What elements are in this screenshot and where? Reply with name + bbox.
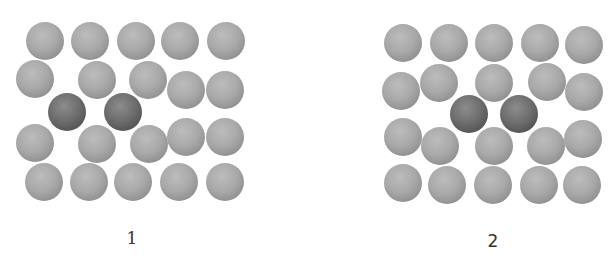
host-atom-sphere xyxy=(384,164,422,202)
host-atom-sphere xyxy=(161,22,199,60)
host-atom-sphere xyxy=(521,24,559,62)
host-atom-sphere xyxy=(16,124,54,162)
host-atom-sphere xyxy=(129,61,167,99)
host-atom-sphere xyxy=(428,166,466,204)
host-atom-sphere xyxy=(528,63,566,101)
host-atom-sphere xyxy=(117,22,155,60)
host-atom-sphere xyxy=(475,64,513,102)
solute-atom-sphere xyxy=(104,93,142,131)
host-atom-sphere xyxy=(26,22,64,60)
host-atom-sphere xyxy=(564,120,602,158)
host-atom-sphere xyxy=(71,22,109,60)
host-atom-sphere xyxy=(78,61,116,99)
host-atom-sphere xyxy=(520,166,558,204)
host-atom-sphere xyxy=(167,118,205,156)
host-atom-sphere xyxy=(206,163,244,201)
solute-atom-sphere xyxy=(500,95,538,133)
diagram-1-label: 1 xyxy=(127,228,138,248)
host-atom-sphere xyxy=(563,166,601,204)
host-atom-sphere xyxy=(384,24,422,62)
host-atom-sphere xyxy=(130,125,168,163)
host-atom-sphere xyxy=(475,127,513,165)
diagram-2-label: 2 xyxy=(488,231,499,251)
host-atom-sphere xyxy=(475,24,513,62)
host-atom-sphere xyxy=(474,166,512,204)
host-atom-sphere xyxy=(565,26,603,64)
host-atom-sphere xyxy=(382,72,420,110)
host-atom-sphere xyxy=(421,127,459,165)
host-atom-sphere xyxy=(565,73,603,111)
host-atom-sphere xyxy=(420,64,458,102)
host-atom-sphere xyxy=(384,118,422,156)
host-atom-sphere xyxy=(25,163,63,201)
host-atom-sphere xyxy=(207,22,245,60)
host-atom-sphere xyxy=(167,71,205,109)
host-atom-sphere xyxy=(206,71,244,109)
solute-atom-sphere xyxy=(48,93,86,131)
host-atom-sphere xyxy=(114,163,152,201)
host-atom-sphere xyxy=(78,125,116,163)
host-atom-sphere xyxy=(430,24,468,62)
host-atom-sphere xyxy=(70,163,108,201)
solute-atom-sphere xyxy=(450,95,488,133)
host-atom-sphere xyxy=(206,118,244,156)
host-atom-sphere xyxy=(527,127,565,165)
host-atom-sphere xyxy=(16,60,54,98)
host-atom-sphere xyxy=(160,163,198,201)
